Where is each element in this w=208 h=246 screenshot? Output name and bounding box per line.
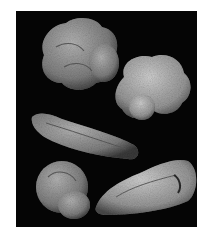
- specimen-bottom-right: [95, 160, 196, 215]
- specimen-bottom-left: [36, 161, 90, 219]
- sem-micrograph: [16, 11, 197, 227]
- specimen-middle: [32, 113, 139, 159]
- specimen-top-right: [115, 55, 190, 120]
- sem-image-frame: [16, 11, 197, 227]
- specimen-top-left: [42, 18, 119, 90]
